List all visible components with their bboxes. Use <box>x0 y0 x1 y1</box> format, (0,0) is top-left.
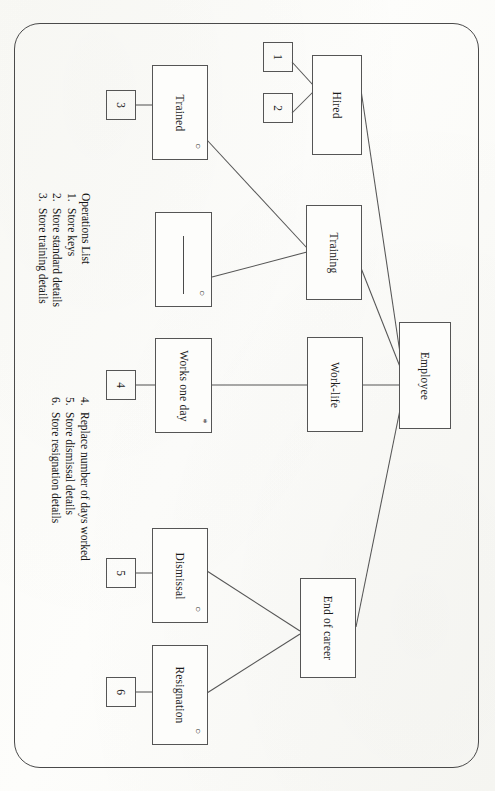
node-works-one-day[interactable]: Works one day * <box>155 338 212 433</box>
number-box-1[interactable]: 1 <box>263 42 293 72</box>
node-training-label: Training <box>328 232 340 273</box>
operations-list-left: Operations List 1. Store keys 2. Store s… <box>35 193 92 307</box>
node-blank-redacted[interactable]: ○ <box>155 212 212 307</box>
operations-item-text: Replace number of days worked <box>77 412 92 561</box>
edge-end-employee <box>356 390 404 627</box>
operations-item-text: Store resignation details <box>48 412 63 523</box>
operations-item: 5. Store dismissal details <box>63 397 78 561</box>
number-box-4[interactable]: 4 <box>106 370 136 400</box>
number-box-2[interactable]: 2 <box>263 93 293 123</box>
number-box-4-label: 4 <box>115 382 127 388</box>
number-box-3-label: 3 <box>115 102 127 108</box>
node-blank-marker: ○ <box>197 290 207 296</box>
operations-item: 6. Store resignation details <box>48 397 63 561</box>
node-resignation[interactable]: Resignation ○ <box>152 645 208 745</box>
edge-hired-employee <box>361 90 404 380</box>
redaction-line <box>183 236 184 294</box>
node-work-life-label: Work-life <box>329 361 341 407</box>
node-end-of-career-label: End of career <box>322 596 334 661</box>
node-resignation-label: Resignation <box>174 666 186 723</box>
number-box-5-label: 5 <box>115 570 127 576</box>
node-work-life[interactable]: Work-life <box>307 337 363 432</box>
node-end-of-career[interactable]: End of career <box>300 578 356 678</box>
node-hired[interactable]: Hired <box>312 55 362 155</box>
node-dismissal[interactable]: Dismissal ○ <box>152 528 208 623</box>
operations-item: 1. Store keys <box>64 193 79 307</box>
operations-item: 3. Store training details <box>35 193 50 307</box>
node-trained[interactable]: Trained ○ <box>152 65 208 160</box>
operations-item-number: 2. <box>50 193 65 208</box>
operations-list-title: Operations List <box>80 193 92 307</box>
node-trained-marker: ○ <box>193 143 203 149</box>
operations-item-number: 4. <box>77 397 92 412</box>
operations-item: 4. Replace number of days worked <box>77 397 92 561</box>
edge-n1-hired <box>292 62 313 85</box>
edge-n2-hired <box>292 92 313 113</box>
number-box-3[interactable]: 3 <box>106 90 136 120</box>
operations-item-number: 6. <box>48 397 63 412</box>
diagram-canvas: 1 2 3 4 5 6 Hired Trained ○ Training <box>0 0 495 791</box>
operations-item-text: Store standard details <box>50 208 65 307</box>
number-box-1-label: 1 <box>272 54 284 60</box>
node-works-one-day-marker: * <box>198 419 208 424</box>
node-dismissal-label: Dismissal <box>174 552 186 599</box>
edge-blank-training <box>212 252 307 277</box>
node-works-one-day-label: Works one day <box>178 350 190 421</box>
number-box-6-label: 6 <box>115 689 127 695</box>
node-resignation-marker: ○ <box>193 728 203 734</box>
node-dismissal-marker: ○ <box>193 606 203 612</box>
node-trained-label: Trained <box>174 94 186 131</box>
edge-resignation-end <box>207 634 300 693</box>
node-employee-label: Employee <box>419 351 431 399</box>
scanned-page: 1 2 3 4 5 6 Hired Trained ○ Training <box>0 0 495 791</box>
number-box-2-label: 2 <box>272 105 284 111</box>
operations-item-number: 3. <box>35 193 50 208</box>
operations-item-text: Store training details <box>35 208 50 304</box>
operations-item-number: 5. <box>63 397 78 412</box>
number-box-5[interactable]: 5 <box>106 558 136 588</box>
node-employee[interactable]: Employee <box>399 322 451 429</box>
number-box-6[interactable]: 6 <box>106 677 136 707</box>
operations-item-number: 1. <box>64 193 79 208</box>
operations-item-text: Store dismissal details <box>63 412 78 515</box>
edge-trained-training <box>207 140 307 248</box>
operations-item: 2. Store standard details <box>50 193 65 307</box>
edge-dismissal-end <box>207 571 300 631</box>
operations-item-text: Store keys <box>64 208 79 256</box>
operations-list-right: 4. Replace number of days worked 5. Stor… <box>48 397 92 561</box>
node-training[interactable]: Training <box>306 205 362 300</box>
node-hired-label: Hired <box>331 91 343 118</box>
